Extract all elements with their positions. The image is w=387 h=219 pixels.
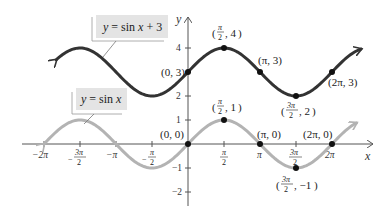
y-tick-label: 4 — [176, 43, 181, 53]
x-tick-label: π — [257, 150, 262, 160]
svg-text:π: π — [218, 97, 223, 106]
svg-text:−: − — [142, 155, 147, 164]
svg-text:, 1: , 1 — [225, 101, 236, 113]
point-label: (2π, 3) — [328, 76, 358, 89]
svg-text:−: − — [68, 155, 73, 164]
svg-text:(: ( — [212, 101, 216, 114]
point-label-3pi2-2: ( 3π 2 , 2 ) — [281, 101, 316, 120]
y-tick-label: 1 — [176, 115, 181, 125]
point-label: (2π, 0) — [303, 128, 333, 141]
svg-text:2: 2 — [218, 107, 222, 116]
svg-text:(: ( — [212, 27, 216, 40]
svg-text:2: 2 — [150, 158, 154, 167]
x-tick-label-3pi-2: 3π 2 — [289, 148, 302, 167]
legend-label: y = sin x + 3 — [102, 20, 162, 34]
svg-text:3π: 3π — [281, 175, 291, 184]
point-label-pi2-4: ( π 2 , 4 ) — [212, 23, 242, 42]
svg-text:, −1: , −1 — [294, 179, 311, 191]
x-tick-label: −2π — [32, 150, 48, 160]
svg-text:3π: 3π — [289, 148, 299, 157]
point-label: (π, 3) — [258, 54, 282, 67]
svg-text:3π: 3π — [286, 101, 296, 110]
svg-text:(: ( — [281, 105, 285, 118]
svg-text:π: π — [218, 23, 223, 32]
point-label: (0, 0) — [160, 128, 184, 141]
y-tick-label: −1 — [172, 163, 182, 173]
svg-text:2: 2 — [77, 158, 81, 167]
svg-text:): ) — [238, 101, 242, 114]
x-tick-label-neg-3pi-2: − 3π 2 — [68, 148, 86, 167]
y-tick-label: 2 — [176, 91, 181, 101]
x-tick-label: −π — [106, 150, 117, 160]
legend-label: y = sin x — [80, 92, 122, 106]
y-tick-label: −2 — [172, 187, 182, 197]
chart: x y 4 2 1 −1 −2 −2π − 3π 2 — [0, 0, 387, 219]
legend-sin-x-plus-3: y = sin x + 3 — [92, 15, 168, 57]
svg-text:(: ( — [276, 179, 280, 192]
x-tick-label-pi-2: π 2 — [220, 148, 228, 167]
axes: x y — [22, 12, 373, 206]
svg-text:): ) — [314, 179, 318, 192]
svg-text:): ) — [238, 27, 242, 40]
svg-text:2: 2 — [222, 158, 226, 167]
svg-text:2: 2 — [289, 111, 293, 120]
point-label: (π, 0) — [257, 128, 281, 141]
svg-text:, 4: , 4 — [225, 27, 237, 39]
svg-text:2: 2 — [284, 185, 288, 194]
y-axis-label: y — [175, 12, 182, 26]
svg-text:2: 2 — [218, 33, 222, 42]
svg-text:, 2: , 2 — [299, 105, 310, 117]
point-label: (0, 3) — [161, 66, 185, 79]
x-axis-label: x — [364, 149, 371, 163]
svg-text:π: π — [222, 148, 227, 157]
point-label-pi2-1: ( π 2 , 1 ) — [212, 97, 242, 116]
x-tick-label-neg-pi-2: − π 2 — [142, 148, 156, 167]
svg-text:π: π — [150, 148, 155, 157]
point-label-3pi2-m1: ( 3π 2 , −1 ) — [276, 175, 318, 194]
svg-text:): ) — [312, 105, 316, 118]
svg-text:3π: 3π — [74, 148, 84, 157]
